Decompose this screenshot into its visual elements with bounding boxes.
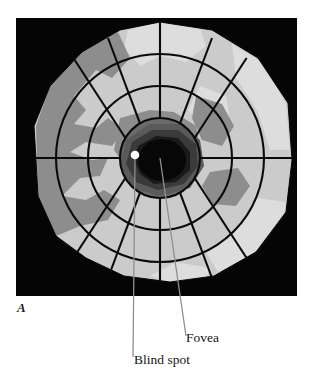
visual-field-svg <box>0 0 317 380</box>
fovea-label: Fovea <box>186 330 219 346</box>
panel-letter-a: A <box>17 300 26 316</box>
visual-field-figure <box>0 0 317 380</box>
blind-spot-label: Blind spot <box>134 352 190 368</box>
blind-spot-marker <box>131 151 140 160</box>
